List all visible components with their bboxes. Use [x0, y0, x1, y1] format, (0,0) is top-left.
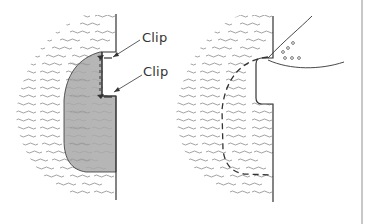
diagram: [0, 0, 365, 224]
frame-border: [361, 0, 363, 224]
clip-label-top: Clip: [142, 30, 167, 45]
right-panel: [176, 15, 344, 202]
clip-label-bottom: Clip: [143, 64, 168, 79]
instrument-upper-edge: [268, 16, 312, 58]
instrument-dots: [282, 42, 301, 60]
instrument-lower-edge: [268, 60, 344, 68]
left-panel: [16, 14, 142, 200]
